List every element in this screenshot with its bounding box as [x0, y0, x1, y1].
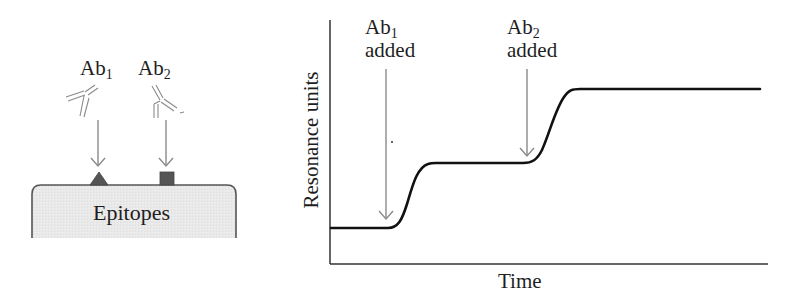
annotation-ab2-text: Ab	[507, 15, 533, 39]
ab1-text: Ab	[80, 56, 106, 80]
annotation-ab1-title: Ab1	[365, 17, 398, 38]
sensorgram-curve	[331, 89, 760, 228]
antibody-2-label: Ab2	[138, 58, 171, 79]
ab1-added-arrow-icon	[379, 69, 393, 219]
ab2-subscript: 2	[164, 67, 171, 82]
arrow-down-icon	[91, 120, 105, 166]
arrow-down-icon	[159, 120, 173, 166]
triangle-epitope-icon	[90, 172, 108, 185]
annotation-ab2-title: Ab2	[507, 17, 540, 38]
annotation-ab1-text: Ab	[365, 15, 391, 39]
ab2-added-arrow-icon	[520, 69, 534, 156]
y-axis-label: Resonance units	[301, 71, 322, 208]
annotation-ab2-added: added	[507, 40, 557, 61]
diagram-root: Ab1 Ab2 Epitopes Ab1 added Ab2 added Tim…	[0, 0, 788, 305]
ab2-text: Ab	[138, 56, 164, 80]
ab1-subscript: 1	[106, 67, 113, 82]
antibody-1-label: Ab1	[80, 58, 113, 79]
speck	[391, 141, 393, 143]
epitopes-label: Epitopes	[93, 202, 170, 224]
annotation-ab1-added: added	[365, 40, 415, 61]
antibody-2-icon	[152, 85, 184, 118]
x-axis-label: Time	[498, 271, 542, 292]
antibody-1-icon	[66, 85, 98, 117]
square-epitope-icon	[160, 172, 174, 185]
